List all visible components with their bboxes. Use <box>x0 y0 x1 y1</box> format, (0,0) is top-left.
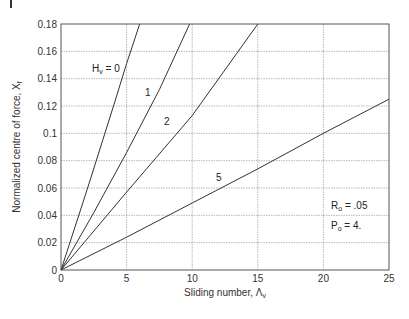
x-tick-label: 20 <box>318 273 330 284</box>
y-tick-label: 0.18 <box>38 19 58 30</box>
series-label-hv-0: Hv = 0 <box>92 63 120 75</box>
x-tick-label: 10 <box>187 273 199 284</box>
y-tick-label: 0.12 <box>38 101 58 112</box>
curve-hv-1 <box>61 24 190 270</box>
x-tick-label: 25 <box>383 273 395 284</box>
series-label-hv-2: 2 <box>164 116 170 127</box>
curve-hv-2 <box>61 24 258 270</box>
x-tick-label: 15 <box>252 273 264 284</box>
x-tick-label: 5 <box>124 273 130 284</box>
curve-hv-0 <box>61 24 140 270</box>
annotation-r0: Ro = .05 <box>331 200 368 212</box>
y-axis-label: Normalized centre of force, Xf <box>11 81 23 213</box>
annotation-p0: Po = 4. <box>331 220 361 232</box>
curve-hv-5 <box>61 99 389 270</box>
y-tick-label: 0.08 <box>38 155 58 166</box>
y-tick-label: 0.04 <box>38 210 58 221</box>
chart: 0510152025 00.020.040.060.080.10.120.140… <box>0 0 409 319</box>
y-tick-label: 0.02 <box>38 237 58 248</box>
grid-lines <box>61 24 389 270</box>
y-axis-ticks: 00.020.040.060.080.10.120.140.160.18 <box>38 19 58 276</box>
y-tick-label: 0 <box>51 265 57 276</box>
data-curves <box>61 24 389 270</box>
x-axis-label: Sliding number, Λv <box>184 287 266 299</box>
y-tick-label: 0.16 <box>38 46 58 57</box>
series-label-hv-1: 1 <box>145 87 151 98</box>
y-tick-label: 0.14 <box>38 73 58 84</box>
series-label-hv-5: 5 <box>216 172 222 183</box>
y-tick-label: 0.06 <box>38 183 58 194</box>
y-tick-label: 0.1 <box>43 128 57 139</box>
x-axis-ticks: 0510152025 <box>58 273 395 284</box>
plot-frame <box>61 24 389 270</box>
x-tick-label: 0 <box>58 273 64 284</box>
